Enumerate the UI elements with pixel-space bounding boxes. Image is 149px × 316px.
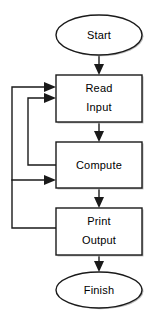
edge-print-to-finish xyxy=(94,255,104,272)
arrowhead-start-to-read xyxy=(94,64,104,75)
flowchart-svg: Start Read Input Compute Print Output Fi… xyxy=(0,0,149,316)
edge-compute-to-print xyxy=(94,188,104,208)
node-start[interactable]: Start xyxy=(56,15,144,56)
start-label: Start xyxy=(87,29,111,41)
edge-read-to-compute xyxy=(94,122,104,142)
edge-start-to-read xyxy=(94,55,104,75)
node-compute[interactable]: Compute xyxy=(56,142,144,189)
edge-print-back-to-compute xyxy=(12,175,56,185)
arrowhead-into-read-inner xyxy=(44,93,56,103)
flowchart-canvas: Start Read Input Compute Print Output Fi… xyxy=(0,0,149,316)
node-print-output[interactable]: Print Output xyxy=(56,208,144,256)
node-read-input[interactable]: Read Input xyxy=(56,75,144,123)
arrowhead-compute-to-print xyxy=(94,197,104,208)
arrowhead-print-to-finish xyxy=(94,261,104,272)
arrowhead-read-to-compute xyxy=(94,131,104,142)
compute-label: Compute xyxy=(76,159,122,171)
node-finish[interactable]: Finish xyxy=(56,272,144,309)
arrowhead-into-read-outer xyxy=(44,82,56,92)
edge-compute-back-to-read xyxy=(28,93,56,165)
print-output-label-line1: Print xyxy=(87,215,111,227)
print-output-label-line2: Output xyxy=(82,234,116,246)
arrowhead-into-compute xyxy=(44,175,56,185)
edge-print-back-to-read xyxy=(12,82,56,228)
finish-label: Finish xyxy=(84,284,115,296)
read-input-label-line2: Input xyxy=(86,101,111,113)
read-input-label-line1: Read xyxy=(85,82,112,94)
